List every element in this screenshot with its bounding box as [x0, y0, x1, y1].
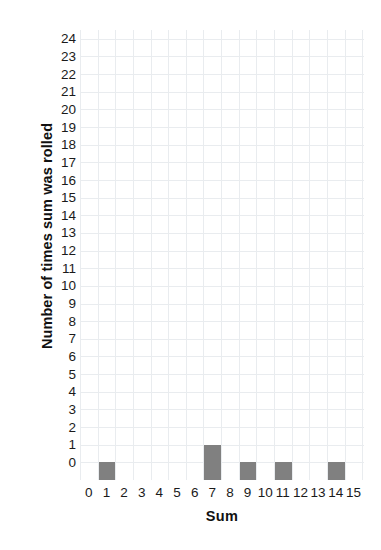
gridline-vertical	[327, 30, 328, 480]
gridline-horizontal	[80, 392, 364, 393]
x-axis-tick-labels: 0123456789101112131415	[80, 485, 364, 505]
gridline-horizontal	[80, 427, 364, 428]
gridline-horizontal	[80, 356, 364, 357]
y-axis-tick-label: 24	[46, 32, 76, 45]
gridline-vertical	[168, 30, 169, 480]
y-axis-tick-label: 20	[46, 103, 76, 116]
y-axis-tick-label: 19	[46, 121, 76, 134]
gridline-vertical	[239, 30, 240, 480]
gridline-horizontal	[80, 215, 364, 216]
gridline-horizontal	[80, 109, 364, 110]
gridline-vertical	[151, 30, 152, 480]
y-axis-tick-label: 10	[46, 279, 76, 292]
y-axis-tick-label: 4	[46, 385, 76, 398]
y-axis-tick-label: 7	[46, 332, 76, 345]
gridline-horizontal	[80, 162, 364, 163]
gridline-horizontal	[80, 339, 364, 340]
y-axis-tick-label: 14	[46, 209, 76, 222]
gridline-horizontal	[80, 268, 364, 269]
gridline-vertical	[186, 30, 187, 480]
gridline-horizontal	[80, 233, 364, 234]
gridline-vertical	[309, 30, 310, 480]
y-axis-tick-label: 23	[46, 50, 76, 63]
gridline-vertical	[274, 30, 275, 480]
gridline-horizontal	[80, 74, 364, 75]
bar	[99, 462, 116, 480]
gridline-vertical	[115, 30, 116, 480]
gridline-vertical	[345, 30, 346, 480]
gridline-vertical	[362, 30, 363, 480]
gridline-horizontal	[80, 445, 364, 446]
gridline-horizontal	[80, 92, 364, 93]
gridline-horizontal	[80, 198, 364, 199]
y-axis-tick-label: 6	[46, 350, 76, 363]
y-axis-tick-label: 9	[46, 297, 76, 310]
bar	[240, 462, 257, 480]
gridline-vertical	[98, 30, 99, 480]
gridline-horizontal	[80, 374, 364, 375]
gridline-horizontal	[80, 321, 364, 322]
gridline-horizontal	[80, 286, 364, 287]
gridline-horizontal	[80, 462, 364, 463]
bar	[275, 462, 292, 480]
gridline-vertical	[203, 30, 204, 480]
y-axis-tick-label: 21	[46, 85, 76, 98]
x-axis-title: Sum	[80, 508, 364, 524]
gridline-vertical	[80, 30, 81, 480]
y-axis-tick-label: 17	[46, 156, 76, 169]
y-axis-tick-label: 12	[46, 244, 76, 257]
y-axis-tick-label: 13	[46, 226, 76, 239]
y-axis-tick-label: 8	[46, 315, 76, 328]
gridline-vertical	[256, 30, 257, 480]
gridline-vertical	[292, 30, 293, 480]
y-axis-tick-label: 16	[46, 174, 76, 187]
gridline-vertical	[133, 30, 134, 480]
y-axis-tick-label: 3	[46, 403, 76, 416]
y-axis-tick-label: 1	[46, 438, 76, 451]
y-axis-tick-label: 15	[46, 191, 76, 204]
gridline-horizontal	[80, 180, 364, 181]
gridline-vertical	[221, 30, 222, 480]
bar	[204, 445, 221, 480]
gridline-horizontal	[80, 251, 364, 252]
gridline-horizontal	[80, 39, 364, 40]
plot-area	[80, 30, 364, 480]
y-axis-tick-label: 2	[46, 421, 76, 434]
gridline-horizontal	[80, 304, 364, 305]
gridline-horizontal	[80, 127, 364, 128]
gridline-horizontal	[80, 56, 364, 57]
gridline-horizontal	[80, 145, 364, 146]
y-axis-tick-label: 0	[46, 456, 76, 469]
y-axis-tick-label: 18	[46, 138, 76, 151]
bar-chart: Number of times sum was rolled 242322212…	[0, 0, 381, 550]
y-axis-tick-label: 5	[46, 368, 76, 381]
y-axis-tick-label: 11	[46, 262, 76, 275]
x-axis-tick-label: 15	[341, 485, 365, 501]
bar	[328, 462, 345, 480]
y-axis-tick-labels: 2423222120191817161514131211109876543210	[46, 30, 76, 460]
gridline-horizontal	[80, 409, 364, 410]
y-axis-tick-label: 22	[46, 68, 76, 81]
